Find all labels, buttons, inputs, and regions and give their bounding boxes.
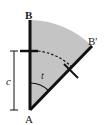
label-c: c bbox=[6, 75, 11, 87]
label-A: A bbox=[25, 113, 33, 125]
shaded-sector bbox=[30, 20, 92, 110]
label-t: t bbox=[41, 70, 44, 81]
label-B: B bbox=[25, 9, 33, 21]
label-B-prime: B' bbox=[88, 35, 97, 47]
sector-diagram: B B' A c t bbox=[0, 0, 112, 125]
